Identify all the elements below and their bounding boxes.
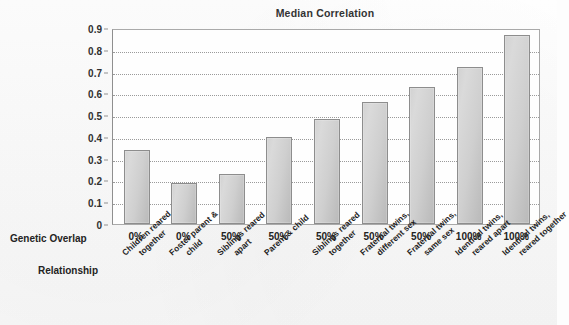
y-axis-tick-label: 0.6 — [88, 89, 102, 100]
y-axis-tick-label: 0.1 — [88, 198, 102, 209]
bar — [314, 119, 340, 224]
y-axis-tick-label: 0.8 — [88, 45, 102, 56]
bar — [362, 102, 388, 224]
relationship-row-label: Relationship — [38, 265, 98, 276]
bar — [219, 174, 245, 224]
bar — [124, 150, 150, 224]
chart-title: Median Correlation — [110, 7, 540, 19]
relationship-values: Children rearedtogetherFoster parent &ch… — [112, 250, 557, 325]
y-axis-tick-mark — [104, 159, 108, 160]
y-axis: 00.10.20.30.40.50.60.70.80.9 — [60, 29, 108, 225]
y-axis-tick-mark — [104, 72, 108, 73]
bar — [504, 35, 530, 224]
bar — [457, 67, 483, 224]
plot-area — [112, 29, 540, 225]
y-axis-tick-mark — [104, 203, 108, 204]
bar — [409, 87, 435, 224]
y-axis-tick-label: 0 — [96, 220, 102, 231]
genetic-overlap-row-label: Genetic Overlap — [10, 233, 87, 244]
y-axis-tick-label: 0.5 — [88, 111, 102, 122]
y-axis-tick-mark — [104, 94, 108, 95]
y-axis-tick-label: 0.2 — [88, 176, 102, 187]
bar — [266, 137, 292, 224]
y-axis-tick-mark — [104, 225, 108, 226]
y-axis-tick-mark — [104, 137, 108, 138]
y-axis-tick-mark — [104, 50, 108, 51]
bar — [171, 183, 197, 224]
y-axis-tick-mark — [104, 116, 108, 117]
y-axis-tick-mark — [104, 181, 108, 182]
bars-layer — [113, 30, 539, 224]
y-axis-tick-mark — [104, 29, 108, 30]
y-axis-tick-label: 0.9 — [88, 24, 102, 35]
y-axis-tick-label: 0.7 — [88, 67, 102, 78]
y-axis-tick-label: 0.3 — [88, 154, 102, 165]
y-axis-tick-label: 0.4 — [88, 132, 102, 143]
